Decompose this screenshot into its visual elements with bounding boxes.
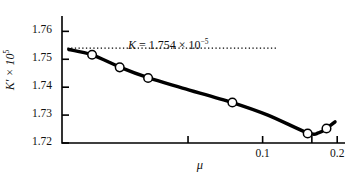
- x-tick-label: 0.1: [243, 147, 283, 159]
- y-tick-label: 1.73: [8, 107, 52, 119]
- figure-container: 1.761.751.741.731.72 0.10.2 K′ × 105 μ K…: [0, 0, 358, 182]
- y-tick-label: 1.76: [8, 23, 52, 35]
- annotation-equals: =: [139, 38, 146, 52]
- y-axis-symbol: K′: [3, 80, 17, 91]
- data-point: [115, 63, 124, 72]
- annotation-value: 1.754: [149, 38, 176, 52]
- y-axis-exponent: 5: [2, 50, 11, 54]
- data-point: [322, 124, 331, 133]
- annotation-symbol: K: [128, 38, 136, 52]
- axis-lines: [62, 16, 345, 143]
- x-tick-label: 0.2: [317, 147, 357, 159]
- annotation-times: ×: [179, 38, 186, 52]
- annotation-exponent: −5: [201, 37, 209, 46]
- y-axis-title: K′ × 105: [2, 40, 18, 100]
- y-axis-base: 10: [3, 53, 17, 65]
- fit-curve-line: [69, 49, 335, 134]
- chart-plot-area: [0, 0, 358, 182]
- intercept-annotation: K = 1.754 × 10−5: [128, 37, 209, 53]
- annotation-base: 10: [189, 38, 201, 52]
- x-axis-tick-marks: [188, 136, 337, 143]
- data-point: [88, 51, 97, 60]
- y-tick-label: 1.72: [8, 135, 52, 147]
- data-point: [144, 74, 153, 83]
- x-axis-title: μ: [180, 158, 220, 173]
- y-axis-times: ×: [3, 68, 17, 76]
- data-point: [228, 98, 237, 107]
- data-point: [303, 129, 312, 138]
